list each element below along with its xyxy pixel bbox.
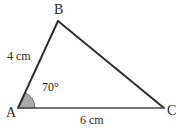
side-length-label-ac: 6 cm: [80, 114, 104, 126]
vertex-label-c: C: [167, 104, 176, 118]
vertex-label-a: A: [6, 106, 16, 120]
vertex-label-b: B: [54, 3, 63, 17]
side-bc-line: [58, 21, 164, 108]
side-length-label-ab: 4 cm: [7, 50, 31, 62]
triangle-svg-canvas: [0, 0, 181, 131]
angle-measure-label-a: 70°: [42, 81, 59, 93]
side-ab-line: [18, 21, 58, 108]
triangle-diagram: B A C 4 cm 6 cm 70°: [0, 0, 181, 131]
